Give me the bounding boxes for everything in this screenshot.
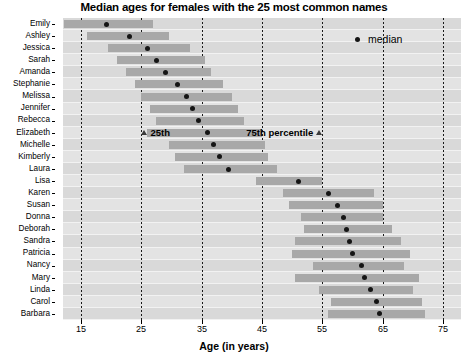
y-axis-tick [52, 266, 55, 267]
category-label-carol: Carol [30, 297, 50, 306]
median-dot [296, 179, 301, 184]
iqr-bar [126, 68, 210, 76]
category-label-karen: Karen [28, 188, 50, 197]
percentile-annotation-1: 75th percentile [246, 127, 313, 138]
median-dot-icon [355, 37, 360, 42]
median-dot [127, 34, 132, 39]
x-tick-label-35: 35 [190, 324, 214, 334]
x-axis: 15253545556575 [63, 320, 461, 342]
category-label-kimberly: Kimberly [18, 152, 50, 161]
x-tick-label-65: 65 [371, 324, 395, 334]
category-label-laura: Laura [29, 164, 50, 173]
median-dot [163, 70, 168, 75]
category-label-michelle: Michelle [20, 140, 50, 149]
category-label-jessica: Jessica [23, 43, 50, 52]
y-axis-tick [52, 84, 55, 85]
y-axis-tick [52, 157, 55, 158]
y-axis-tick [52, 36, 55, 37]
y-axis-tick [52, 133, 55, 134]
y-axis-labels: EmilyAshleyJessicaSarahAmandaStephanieMe… [0, 18, 57, 320]
percentile-annotation-0: 25th [150, 127, 170, 138]
y-axis-tick [52, 24, 55, 25]
y-axis-tick [52, 60, 55, 61]
percentile-marker-1 [316, 130, 322, 135]
category-label-patricia: Patricia [23, 248, 50, 257]
y-axis-tick [52, 181, 55, 182]
category-label-deborah: Deborah [19, 224, 50, 233]
category-label-linda: Linda [30, 285, 50, 294]
median-dot [344, 227, 349, 232]
iqr-bar [117, 56, 204, 64]
y-axis-tick [52, 72, 55, 73]
iqr-bar [319, 286, 412, 294]
median-dot [154, 58, 159, 63]
category-label-susan: Susan [27, 200, 50, 209]
category-label-ashley: Ashley [25, 31, 50, 40]
y-axis-tick [52, 169, 55, 170]
y-axis-tick [52, 193, 55, 194]
category-label-melissa: Melissa [22, 91, 50, 100]
median-dot [175, 82, 180, 87]
median-dot [326, 191, 331, 196]
y-axis-tick [52, 314, 55, 315]
median-dot [104, 22, 109, 27]
x-tick-label-75: 75 [431, 324, 455, 334]
y-axis-tick [52, 109, 55, 110]
median-dot [145, 46, 150, 51]
iqr-bar [169, 141, 265, 149]
y-axis-tick [52, 48, 55, 49]
category-label-stephanie: Stephanie [13, 79, 50, 88]
x-tick-label-45: 45 [250, 324, 274, 334]
category-label-lisa: Lisa [35, 176, 50, 185]
y-axis-tick [52, 145, 55, 146]
y-axis-tick [52, 278, 55, 279]
legend-label-median: median [368, 33, 402, 45]
y-axis-tick [52, 241, 55, 242]
x-tick-label-55: 55 [310, 324, 334, 334]
x-tick-label-15: 15 [69, 324, 93, 334]
median-dot [350, 251, 355, 256]
category-label-nancy: Nancy [27, 260, 50, 269]
iqr-bar [295, 274, 419, 282]
chart-legend: median [355, 33, 402, 45]
y-axis-tick [52, 254, 55, 255]
median-dot [341, 215, 346, 220]
category-label-mary: Mary [32, 273, 50, 282]
category-label-donna: Donna [26, 212, 50, 221]
plot-area: 25th75th percentile [63, 18, 461, 320]
category-label-amanda: Amanda [20, 67, 51, 76]
gridline-75 [443, 18, 444, 320]
y-axis-tick [52, 302, 55, 303]
category-label-sarah: Sarah [28, 55, 50, 64]
median-dot [226, 167, 231, 172]
y-axis-tick [52, 290, 55, 291]
iqr-bar [256, 177, 322, 185]
category-label-elizabeth: Elizabeth [16, 128, 50, 137]
y-axis-tick [52, 217, 55, 218]
y-axis-tick [52, 97, 55, 98]
category-label-sandra: Sandra [24, 236, 50, 245]
y-axis-tick [52, 229, 55, 230]
median-dot [347, 239, 352, 244]
x-tick-label-25: 25 [129, 324, 153, 334]
category-label-emily: Emily [30, 19, 50, 28]
x-axis-title: Age (in years) [0, 340, 468, 352]
chart-container: Median ages for females with the 25 most… [0, 0, 468, 364]
gridline-15 [81, 18, 82, 320]
median-dot [335, 203, 340, 208]
y-axis-tick [52, 205, 55, 206]
y-axis-tick [52, 121, 55, 122]
chart-title: Median ages for females with the 25 most… [0, 1, 468, 13]
category-label-barbara: Barbara [21, 309, 50, 318]
category-label-jennifer: Jennifer [21, 103, 50, 112]
category-label-rebecca: Rebecca [18, 115, 50, 124]
percentile-marker-0 [141, 130, 147, 135]
